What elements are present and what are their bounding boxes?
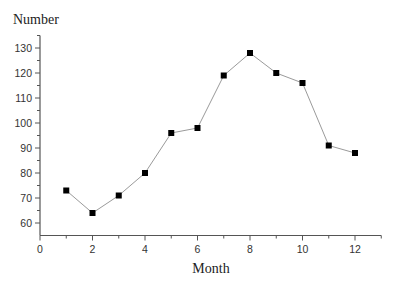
x-tick-label: 8 (247, 243, 253, 255)
y-tick-label: 80 (20, 167, 32, 179)
x-tick-label: 0 (37, 243, 43, 255)
y-tick-label: 60 (20, 217, 32, 229)
x-axis-title: Month (192, 261, 229, 276)
data-series (63, 50, 358, 216)
data-point-marker (300, 80, 306, 86)
x-tick-label: 4 (142, 243, 148, 255)
data-point-marker (63, 188, 69, 194)
axes (37, 36, 381, 239)
y-axis-ticks: 60708090100110120130 (14, 42, 40, 229)
x-tick-label: 12 (349, 243, 361, 255)
data-point-marker (326, 143, 332, 149)
data-point-marker (195, 125, 201, 131)
data-point-marker (247, 50, 253, 56)
y-tick-label: 110 (15, 92, 32, 104)
data-point-marker (90, 210, 96, 216)
data-point-marker (116, 193, 122, 199)
line-chart: Number 60708090100110120130 024681012 Mo… (0, 0, 396, 287)
y-tick-label: 130 (14, 42, 32, 54)
y-tick-label: 70 (20, 192, 32, 204)
y-tick-label: 100 (14, 117, 32, 129)
data-point-marker (352, 150, 358, 156)
y-axis-title: Number (13, 12, 59, 27)
x-tick-label: 6 (195, 243, 201, 255)
x-tick-label: 2 (90, 243, 96, 255)
y-tick-label: 90 (20, 142, 32, 154)
x-tick-label: 10 (297, 243, 309, 255)
data-point-marker (273, 70, 279, 76)
data-point-marker (142, 170, 148, 176)
y-tick-label: 120 (14, 67, 32, 79)
data-point-marker (168, 130, 174, 136)
data-point-marker (221, 73, 227, 79)
x-axis-ticks: 024681012 (37, 236, 361, 255)
series-line (66, 53, 355, 213)
